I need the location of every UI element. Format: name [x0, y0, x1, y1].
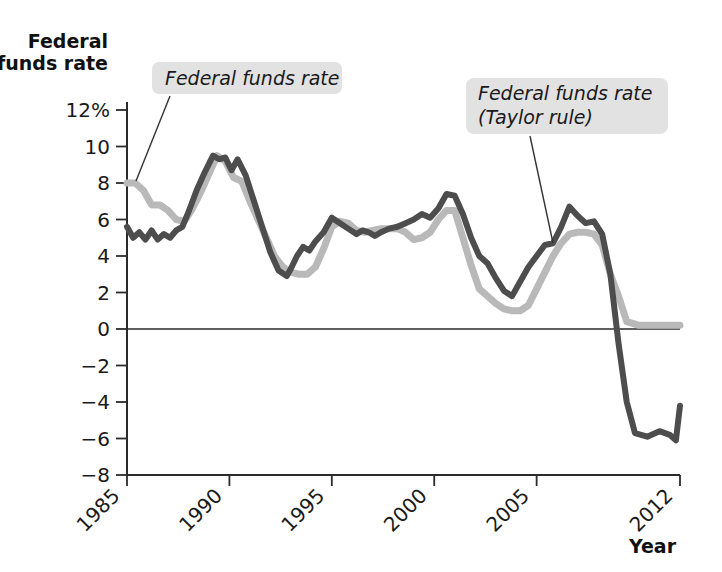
- taylor-rule-leader-line: [530, 136, 553, 243]
- y-tick-label: 2: [97, 281, 110, 305]
- x-tick-label: 2005: [481, 484, 534, 537]
- taylor-rule-label-line2: (Taylor rule): [478, 106, 593, 128]
- x-axis-title: Year: [628, 535, 677, 557]
- series-line-taylor: [127, 156, 680, 441]
- x-tick-label: 1985: [72, 484, 125, 537]
- federal-funds-rate-leader-line: [136, 96, 170, 181]
- y-tick-label: 12%: [66, 98, 110, 122]
- chart-svg: 12%1086420−2−4−6−81985199019952000200520…: [0, 0, 722, 572]
- y-tick-label: 4: [97, 244, 110, 268]
- x-tick-label: 2000: [379, 484, 432, 537]
- federal-funds-rate-label: Federal funds rate: [165, 67, 340, 89]
- y-tick-label: −8: [81, 463, 110, 487]
- y-axis-title-line1: Federal: [28, 30, 108, 52]
- y-tick-label: 6: [97, 208, 110, 232]
- x-tick-label: 2012: [625, 484, 678, 537]
- y-tick-label: −2: [81, 354, 110, 378]
- y-tick-label: 8: [97, 171, 110, 195]
- y-axis-title-line2: funds rate: [0, 52, 108, 74]
- taylor-rule-label-line1: Federal funds rate: [478, 82, 653, 104]
- y-tick-label: −4: [81, 390, 110, 414]
- x-tick-label: 1990: [174, 484, 227, 537]
- figure-federal-funds-rate: 12%1086420−2−4−6−81985199019952000200520…: [0, 0, 722, 572]
- series-line-actual: [127, 156, 680, 326]
- y-tick-label: 10: [85, 135, 110, 159]
- y-tick-label: 0: [97, 317, 110, 341]
- y-tick-label: −6: [81, 427, 110, 451]
- x-tick-label: 1995: [276, 484, 329, 537]
